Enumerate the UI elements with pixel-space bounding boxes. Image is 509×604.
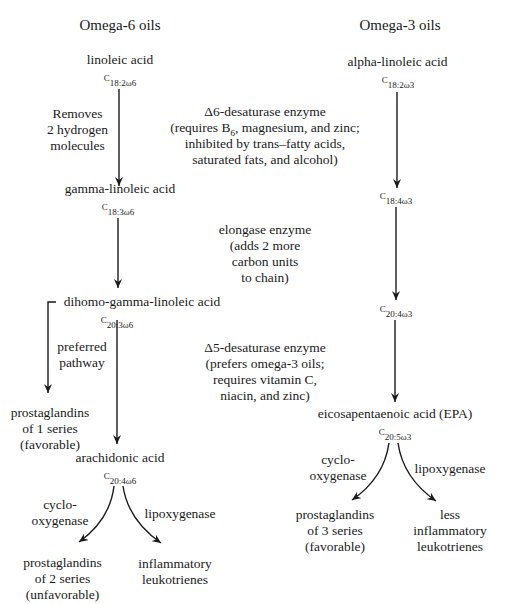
formula-c20-4-omega3: C20:4ω3 bbox=[346, 303, 446, 320]
formula-c18-4-omega3: C18:4ω3 bbox=[346, 190, 446, 207]
node-inflammatory-leukotrienes: inflammatory leukotrienes bbox=[135, 556, 215, 588]
note-removes-hydrogen: Removes 2 hydrogen molecules bbox=[40, 106, 115, 154]
node-eicosapentaenoic-acid: eicosapentaenoic acid (EPA) bbox=[315, 406, 475, 422]
enzyme-delta5: Δ5-desaturase enzyme (prefers omega-3 oi… bbox=[190, 340, 340, 404]
enzyme-elongase: elongase enzyme (adds 2 more carbon unit… bbox=[210, 222, 320, 286]
formula-alpha-linoleic: C18:2ω3 bbox=[348, 74, 448, 91]
formula-epa: C20:5ω3 bbox=[345, 426, 445, 443]
node-prostaglandins-2-series: prostaglandins of 2 series (unfavorable) bbox=[15, 555, 110, 603]
omega3-title: Omega-3 oils bbox=[340, 17, 460, 33]
enzyme-delta6-details: inhibited by trans–fatty acids, saturate… bbox=[170, 136, 360, 168]
label-preferred-pathway: preferred pathway bbox=[52, 339, 112, 371]
node-linoleic-acid: linoleic acid bbox=[60, 52, 180, 68]
label-cyclooxygenase-omega6: cyclo- oxygenase bbox=[25, 497, 95, 529]
enzyme-delta6-title: Δ6-desaturase enzyme bbox=[190, 104, 340, 120]
node-arachidonic-acid: arachidonic acid bbox=[60, 450, 180, 466]
formula-dihomo: C20:3ω6 bbox=[67, 314, 167, 331]
label-lipoxygenase-omega6: lipoxygenase bbox=[140, 506, 220, 522]
formula-gamma: C18:3ω6 bbox=[68, 201, 168, 218]
node-prostaglandins-1-series: prostaglandins of 1 series (favorable) bbox=[5, 405, 95, 453]
node-prostaglandins-3-series: prostaglandins of 3 series (favorable) bbox=[295, 507, 375, 555]
omega6-title: Omega-6 oils bbox=[60, 17, 180, 33]
node-dihomo-gamma-linoleic-acid: dihomo-gamma-linoleic acid bbox=[62, 294, 222, 310]
node-alpha-linoleic-acid: alpha-linoleic acid bbox=[330, 54, 465, 70]
formula-arachidonic: C20:4ω6 bbox=[70, 470, 170, 487]
node-less-inflammatory-leukotrienes: less inflammatory leukotrienes bbox=[410, 507, 490, 555]
label-cyclooxygenase-omega3: cyclo- oxygenase bbox=[303, 452, 373, 484]
label-lipoxygenase-omega3: lipoxygenase bbox=[410, 461, 490, 477]
formula-linoleic: C18:2ω6 bbox=[70, 72, 170, 89]
node-gamma-linoleic-acid: gamma-linoleic acid bbox=[40, 181, 200, 197]
